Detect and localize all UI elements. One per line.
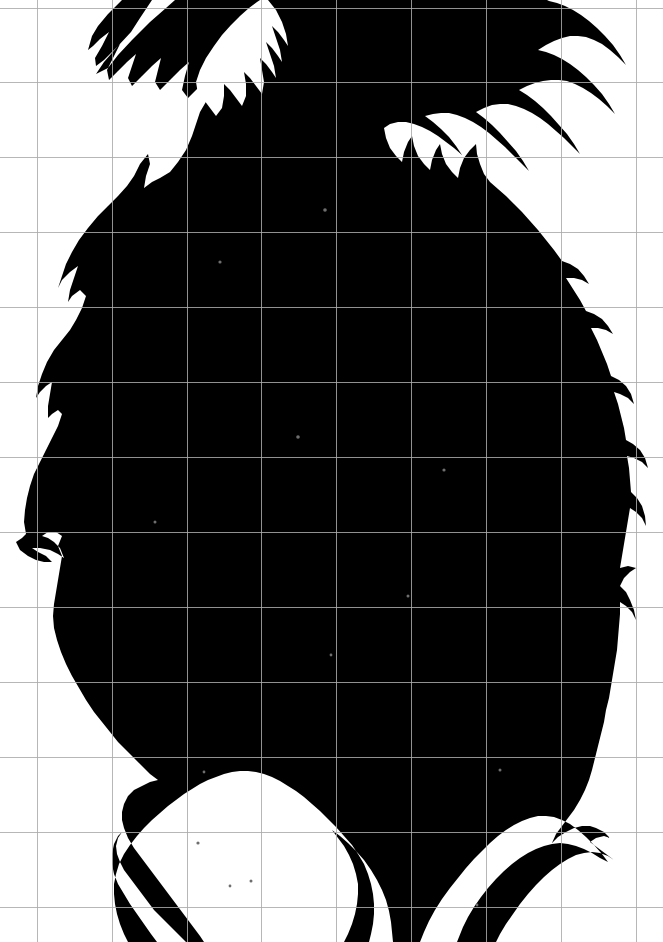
pineapple-silhouette	[0, 0, 663, 942]
dust-speck	[442, 468, 445, 471]
dust-speck	[407, 595, 410, 598]
dust-speck	[154, 521, 157, 524]
dust-speck	[218, 260, 221, 263]
dust-speck	[296, 435, 300, 439]
dust-speck	[499, 769, 502, 772]
dust-speck	[476, 904, 479, 907]
dust-speck	[250, 880, 253, 883]
dust-speck	[229, 885, 232, 888]
dust-speck	[330, 654, 333, 657]
image-canvas: High-contrast black silhouette of a pine…	[0, 0, 663, 942]
dust-speck	[203, 771, 206, 774]
dust-speck	[196, 841, 199, 844]
dust-speck	[323, 208, 327, 212]
